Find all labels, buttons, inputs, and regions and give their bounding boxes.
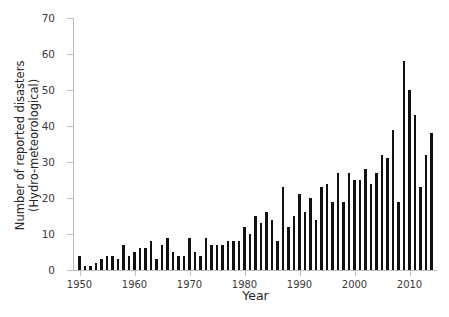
bar (425, 155, 428, 270)
bar (282, 187, 285, 270)
bar (265, 212, 268, 270)
bar (210, 245, 213, 270)
bar (403, 61, 406, 270)
bar (155, 259, 158, 270)
x-axis-tick (190, 270, 191, 276)
bar (199, 256, 202, 270)
bar (133, 252, 136, 270)
bar (430, 133, 433, 270)
bar (205, 238, 208, 270)
bar (309, 198, 312, 270)
bar (161, 245, 164, 270)
bar (397, 202, 400, 270)
bar (95, 263, 98, 270)
y-axis-tick (67, 18, 73, 19)
y-axis-tick (67, 270, 73, 271)
bar (326, 184, 329, 270)
y-axis-tick-label: 10 (25, 228, 55, 240)
bar (337, 173, 340, 270)
bar (139, 248, 142, 270)
x-axis-tick (300, 270, 301, 276)
bar (320, 187, 323, 270)
y-axis-tick-label: 60 (25, 48, 55, 60)
bar (249, 234, 252, 270)
bar (298, 194, 301, 270)
x-axis-tick (245, 270, 246, 276)
bar (150, 241, 153, 270)
bar (419, 187, 422, 270)
bar (238, 241, 241, 270)
y-axis-tick-label: 30 (25, 156, 55, 168)
bar (128, 256, 131, 270)
bar (89, 266, 92, 270)
bar (117, 259, 120, 270)
bar (287, 227, 290, 270)
bar (342, 202, 345, 270)
bar (232, 241, 235, 270)
bar (375, 173, 378, 270)
bar (111, 256, 114, 270)
bar (188, 238, 191, 270)
bar-series (74, 18, 437, 270)
bar (122, 245, 125, 270)
bar (78, 256, 81, 270)
chart-figure: Number of reported disasters (Hydro-mete… (0, 0, 449, 317)
bar (254, 216, 257, 270)
bar (100, 259, 103, 270)
bar (177, 256, 180, 270)
bar (144, 248, 147, 270)
y-axis-tick-label: 70 (25, 12, 55, 24)
bar (414, 115, 417, 270)
bar (304, 212, 307, 270)
y-axis-tick-label: 40 (25, 120, 55, 132)
bar (370, 184, 373, 270)
bar (359, 180, 362, 270)
x-axis-tick (355, 270, 356, 276)
bar (315, 220, 318, 270)
y-axis-title: Number of reported disasters (Hydro-mete… (0, 0, 56, 290)
x-axis-tick (80, 270, 81, 276)
bar (392, 130, 395, 270)
bar (260, 223, 263, 270)
y-axis-tick (67, 234, 73, 235)
bar (216, 245, 219, 270)
y-axis-tick-label: 50 (25, 84, 55, 96)
y-axis-tick (67, 162, 73, 163)
y-axis-tick (67, 126, 73, 127)
bar (172, 252, 175, 270)
y-axis-tick (67, 54, 73, 55)
bar (106, 256, 109, 270)
bar (84, 266, 87, 270)
y-axis-tick-label: 20 (25, 192, 55, 204)
y-axis-tick (67, 90, 73, 91)
bar (227, 241, 230, 270)
bar (408, 90, 411, 270)
x-axis-title: Year (74, 288, 437, 303)
x-axis-tick (410, 270, 411, 276)
bar (386, 158, 389, 270)
x-axis-line (73, 270, 437, 271)
bar (364, 169, 367, 270)
bar (243, 227, 246, 270)
bar (271, 220, 274, 270)
y-axis-tick (67, 198, 73, 199)
plot-area: 0102030405060701950196019701980199020002… (74, 18, 437, 270)
bar (348, 173, 351, 270)
bar (331, 202, 334, 270)
bar (166, 238, 169, 270)
bar (183, 256, 186, 270)
bar (276, 241, 279, 270)
bar (381, 155, 384, 270)
bar (353, 180, 356, 270)
bar (293, 216, 296, 270)
x-axis-tick (135, 270, 136, 276)
y-axis-tick-label: 0 (25, 264, 55, 276)
bar (221, 245, 224, 270)
bar (194, 252, 197, 270)
